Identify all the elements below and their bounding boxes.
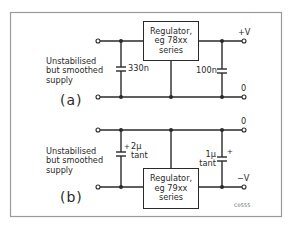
regulator-box-a: Regulator, eg 78xx series	[143, 21, 199, 61]
input-label-b: Unstabilised but smoothed supply	[46, 147, 103, 175]
figure-code: C0555	[234, 203, 251, 208]
junction-dot	[220, 185, 224, 189]
input-label-line: supply	[46, 76, 103, 85]
output-bottom-label-b: −V	[237, 174, 249, 183]
capacitor-1u-polarity: +	[227, 148, 233, 157]
junction-dot	[119, 95, 123, 99]
junction-dot	[119, 185, 123, 189]
capacitor-2u-label: 2µ tant	[131, 142, 148, 161]
terminal-a-out-bottom	[242, 95, 246, 99]
junction-dot	[119, 128, 123, 132]
capacitor-330n-label: 330n	[128, 64, 149, 73]
capacitor-type: tant	[131, 151, 148, 160]
junction-dot	[220, 95, 224, 99]
input-label-a: Unstabilised but smoothed supply	[46, 57, 103, 85]
regulator-box-b: Regulator, eg 79xx series	[143, 168, 199, 209]
terminal-a-in-top	[96, 39, 100, 43]
terminal-a-in-bottom	[96, 95, 100, 99]
terminal-a-out-top	[242, 39, 246, 43]
output-bottom-label-a: 0	[241, 84, 246, 93]
terminal-b-out-top	[242, 128, 246, 132]
regulator-text: series	[159, 193, 183, 202]
junction-dot	[220, 128, 224, 132]
input-label-line: supply	[46, 166, 103, 175]
terminal-b-in-top	[96, 128, 100, 132]
panel-label-b: (b)	[60, 189, 83, 205]
capacitor-2u-polarity: +	[124, 143, 130, 152]
capacitor-type: tant	[196, 159, 216, 168]
capacitor-1u-label: 1µ tant	[196, 150, 216, 169]
terminal-b-out-bottom	[242, 185, 246, 189]
junction-dot	[169, 95, 173, 99]
regulator-text: series	[159, 46, 183, 55]
terminal-b-in-bottom	[96, 185, 100, 189]
junction-dot	[169, 128, 173, 132]
output-top-label-b: 0	[241, 117, 246, 126]
junction-dot	[119, 39, 123, 43]
output-top-label-a: +V	[238, 28, 250, 37]
capacitor-100n-label: 100n	[196, 66, 217, 75]
panel-label-a: (a)	[60, 92, 83, 108]
junction-dot	[220, 39, 224, 43]
